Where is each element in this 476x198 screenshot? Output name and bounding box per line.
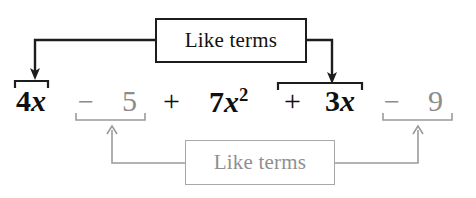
bottom-left-connector-line	[112, 130, 185, 163]
top-left-connector-line	[35, 40, 155, 72]
top-left-arrowhead	[30, 68, 40, 80]
bottom-arrowheads	[107, 126, 423, 134]
term-5: 5	[122, 86, 137, 116]
term-7x-squared: 7x2	[209, 86, 248, 117]
bottom-left-arrowhead	[107, 126, 117, 134]
like-terms-diagram: Like terms Like terms 4x − 5 + 7x2 + 3x …	[0, 0, 476, 198]
top-brackets	[15, 81, 362, 90]
like-terms-box-bottom: Like terms	[185, 140, 335, 185]
term-4x-variable: x	[31, 84, 46, 117]
like-terms-box-top-label: Like terms	[185, 28, 277, 53]
term-3x-variable: x	[340, 84, 355, 117]
top-arrowheads	[30, 68, 337, 84]
like-terms-box-top: Like terms	[155, 18, 307, 63]
top-right-arrowhead	[327, 72, 337, 84]
bottom-right-connector-line	[335, 130, 418, 163]
term-7x-squared-variable: x	[224, 85, 239, 118]
term-7x-squared-exponent: 2	[239, 84, 248, 105]
top-right-connector-line	[307, 40, 332, 76]
operator-minus-before-5: −	[78, 88, 94, 116]
term-7x-squared-coefficient: 7	[209, 85, 224, 118]
operator-plus-before-7x2: +	[163, 86, 180, 116]
operator-plus-before-3x: +	[284, 86, 301, 116]
term-3x-coefficient: 3	[325, 84, 340, 117]
like-terms-box-bottom-label: Like terms	[214, 150, 306, 175]
term-9: 9	[428, 86, 443, 116]
term-3x: 3x	[325, 86, 355, 116]
operator-minus-before-9: −	[384, 88, 400, 116]
term-4x: 4x	[16, 86, 46, 116]
bottom-right-arrowhead	[413, 126, 423, 134]
term-4x-coefficient: 4	[16, 84, 31, 117]
